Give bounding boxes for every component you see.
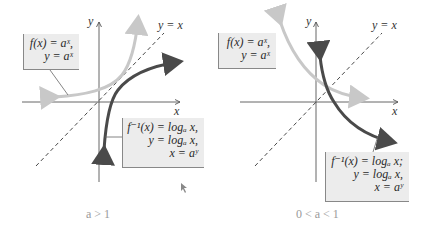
- log-function-label: f⁻¹(x) = logₐ x; y = logₐ x, x = aʸ: [325, 152, 409, 202]
- exp-leader: [50, 70, 68, 95]
- exp-function-label: f(x) = aˣ, y = aˣ: [218, 33, 276, 69]
- y-axis-label: y: [88, 14, 93, 29]
- caption-a-greater-than-1: a > 1: [86, 207, 110, 222]
- exp-function-label: f(x) = aˣ, y = aˣ: [23, 34, 79, 70]
- cursor-icon: [180, 182, 190, 194]
- log-label-line3: x = aʸ: [330, 181, 403, 194]
- identity-label: y = x: [158, 18, 183, 33]
- y-axis-label: y: [306, 14, 311, 29]
- exp-label-line2: y = aˣ: [28, 50, 73, 63]
- log-curve: [320, 56, 392, 142]
- caption-a-between-0-and-1: 0 < a < 1: [296, 207, 339, 222]
- exp-label-line2: y = aˣ: [223, 49, 270, 62]
- log-label-line3: x = aʸ: [127, 147, 198, 160]
- identity-label: y = x: [372, 18, 397, 33]
- log-function-label: f⁻¹(x) = logₐ x, y = logₐ x, x = aʸ: [122, 118, 204, 168]
- exp-curve: [280, 21, 364, 98]
- panel-a-greater-than-1: y x y = x f(x) = aˣ, y = aˣ f⁻¹(x) = log…: [0, 0, 214, 235]
- x-axis-label: x: [392, 104, 397, 119]
- x-axis-label: x: [174, 104, 179, 119]
- panel-a-between-0-and-1: y x y = x f(x) = aˣ, y = aˣ f⁻¹(x) = log…: [214, 0, 428, 235]
